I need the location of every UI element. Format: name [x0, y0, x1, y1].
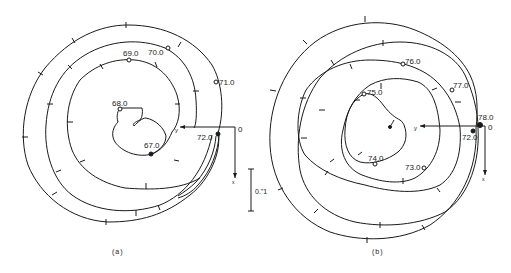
- panel-a-point-67: [149, 152, 153, 156]
- panel-a-label-y: y: [175, 127, 178, 133]
- panel-a-label-72: 72.0: [197, 133, 213, 142]
- panel-b-label-72: 72.0: [462, 133, 478, 142]
- panel-a-point-71: [214, 80, 218, 84]
- panel-b-x-arrow-icon: [483, 170, 487, 175]
- panel-b-axes: [420, 124, 487, 175]
- panel-b-point-78: [478, 123, 483, 128]
- diagram-canvas: 69.0 70.0 71.0 68.0 67.0 72.0 0 y x 0."1…: [0, 0, 511, 273]
- panel-b-tick-marks: [270, 16, 461, 243]
- panel-a-label-origin: 0: [238, 125, 243, 134]
- panel-b-y-arrow-icon: [420, 124, 425, 128]
- panel-a-label-68: 68.0: [112, 99, 128, 108]
- panel-a: 69.0 70.0 71.0 68.0 67.0 72.0 0 y x 0."1…: [22, 22, 267, 256]
- panel-b-point-73: [422, 166, 426, 170]
- panel-a-label-70: 70.0: [148, 48, 164, 57]
- panel-a-label-69: 69.0: [123, 49, 139, 58]
- panel-b: 75.0 76.0 77.0 78.0 72.0 74.0 73.0 0 y x…: [270, 16, 494, 256]
- panel-b-label-origin: 0: [488, 123, 493, 132]
- panel-a-x-arrow-icon: [233, 173, 237, 178]
- panel-a-orbit-core: [113, 108, 172, 155]
- scale-bar: 0."1: [248, 169, 267, 211]
- panel-b-orbit-outer: [270, 23, 477, 239]
- panel-a-label-71: 71.0: [219, 78, 235, 87]
- panel-b-point-75: [362, 92, 366, 96]
- panel-b-label-74: 74.0: [368, 154, 384, 163]
- panel-b-label-73: 73.0: [405, 163, 421, 172]
- panel-a-y-arrow-icon: [180, 125, 185, 129]
- scale-bar-label: 0."1: [255, 188, 267, 195]
- panel-a-label-67: 67.0: [144, 141, 160, 150]
- panel-b-label-y: y: [414, 125, 417, 131]
- panel-b-orbit-inner: [345, 94, 406, 163]
- panel-a-point-70: [166, 46, 170, 50]
- panel-b-label-78: 78.0: [478, 113, 494, 122]
- panel-b-label-75: 75.0: [367, 88, 383, 97]
- panel-b-label-77: 77.0: [453, 81, 469, 90]
- panel-b-caption: (b): [372, 248, 384, 256]
- panel-a-label-x: x: [232, 179, 235, 185]
- panel-b-label-x: x: [482, 176, 485, 182]
- panel-b-orbit-second: [298, 42, 478, 225]
- panel-a-point-72: [216, 132, 220, 136]
- panel-a-point-69: [127, 58, 131, 62]
- panel-a-caption: (a): [112, 248, 124, 256]
- panel-b-label-76: 76.0: [405, 57, 421, 66]
- panel-b-point-center: [389, 126, 392, 129]
